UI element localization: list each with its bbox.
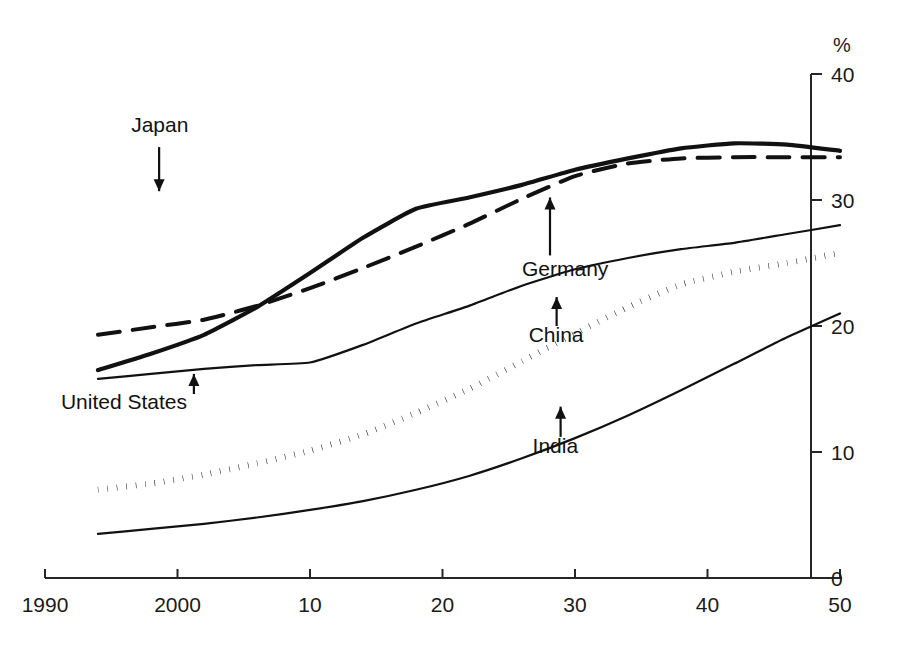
x-tick-label: 2000 [154, 593, 201, 616]
chart-axes [45, 74, 842, 578]
x-tick-label: 50 [828, 593, 851, 616]
x-tick-label: 40 [696, 593, 719, 616]
x-tick-label: 20 [431, 593, 454, 616]
line-chart-plot: JapanGermanyUnited StatesChinaIndia 1990… [0, 0, 903, 647]
annotation-label-china: China [529, 323, 584, 346]
x-tick-label: 30 [563, 593, 586, 616]
annotation-arrowhead-germany [545, 197, 556, 209]
series-line-india [98, 313, 840, 534]
annotation-arrowhead-japan [154, 179, 165, 191]
series-line-japan [98, 143, 840, 370]
annotation-arrowhead-united-states [188, 374, 199, 386]
x-tick-label: 1990 [22, 593, 69, 616]
annotation-label-india: India [533, 434, 579, 457]
y-tick-label: 10 [831, 441, 854, 464]
series-line-united-states [98, 225, 840, 379]
series-line-germany [98, 157, 840, 335]
y-axis-unit-label: % [833, 34, 851, 56]
y-tick-label: 30 [831, 189, 854, 212]
annotation-label-germany: Germany [522, 257, 609, 280]
annotation-label-japan: Japan [131, 113, 188, 136]
chart-container: JapanGermanyUnited StatesChinaIndia 1990… [0, 0, 903, 647]
y-tick-label: 40 [831, 63, 854, 86]
series-line-china [98, 253, 840, 490]
y-tick-label: 20 [831, 315, 854, 338]
annotation-label-united-states: United States [61, 390, 187, 413]
annotation-arrowhead-china [551, 297, 562, 309]
chart-series-group [98, 143, 840, 534]
annotation-arrowhead-india [555, 407, 566, 419]
x-tick-label: 10 [298, 593, 321, 616]
y-tick-label: 0 [831, 567, 843, 590]
